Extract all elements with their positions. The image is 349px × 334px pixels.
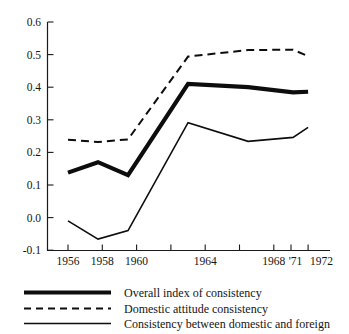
series-domestic-attitude-consistency [68,50,308,142]
y-tick-label: 0.5 [27,49,42,61]
y-tick-label: 0.3 [27,114,42,126]
x-tick-label: 1964 [194,255,217,267]
legend-label: Consistency between domestic and foreign [124,317,330,331]
chart-figure: 0.6 0.5 0.4 0.3 0.2 0.1 0.0 -0.1 1956 19… [0,0,349,334]
y-tick-label: 0.4 [27,81,42,93]
y-tick-label: -0.1 [23,244,41,256]
x-axis-tick-labels: 1956 1958 1960 1964 1968 '71 1972 [57,255,334,267]
y-tick-label: 0.6 [27,16,42,28]
x-tick-label: 1956 [57,255,80,267]
y-tick-label: 0.1 [27,179,42,191]
legend-item-between: Consistency between domestic and foreign [24,317,330,331]
y-axis-ticks [48,22,54,250]
series-consistency-between-domestic-and-foreign [68,123,308,239]
x-tick-label: 1960 [125,255,148,267]
legend-item-domestic: Domestic attitude consistency [24,302,268,316]
chart-series-group [68,50,308,239]
line-chart: 0.6 0.5 0.4 0.3 0.2 0.1 0.0 -0.1 1956 19… [0,0,349,334]
x-tick-label: 1958 [91,255,114,267]
series-overall-index-of-consistency [68,84,308,175]
y-tick-label: 0.0 [27,212,42,224]
legend-label: Domestic attitude consistency [124,302,268,316]
x-tick-label: 1972 [310,255,333,267]
x-axis-ticks [68,245,308,251]
x-tick-label: '71 [289,255,303,267]
legend-label: Overall index of consistency [124,286,262,300]
y-axis-tick-labels: 0.6 0.5 0.4 0.3 0.2 0.1 0.0 -0.1 [23,16,41,256]
chart-legend: Overall index of consistency Domestic at… [24,286,330,331]
y-tick-label: 0.2 [27,146,42,158]
legend-item-overall: Overall index of consistency [24,286,262,300]
x-tick-label: 1968 [262,255,285,267]
